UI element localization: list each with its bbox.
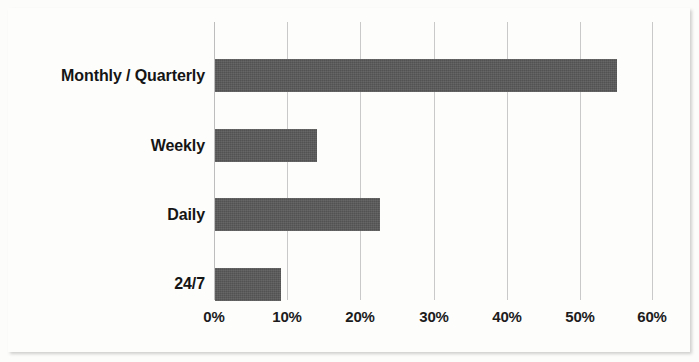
xtick-label-60: 60% <box>637 308 666 325</box>
xtick-label-50: 50% <box>565 308 594 325</box>
category-axis-labels: Monthly / Quarterly Weekly Daily 24/7 <box>8 22 205 300</box>
bar-weekly <box>215 129 317 162</box>
xtick-label-40: 40% <box>492 308 521 325</box>
plot-area: 0% 10% 20% 30% 40% 50% 60% <box>214 22 653 300</box>
xtick-label-20: 20% <box>345 308 374 325</box>
category-label-24-7: 24/7 <box>0 275 205 293</box>
bar-24-7 <box>215 268 281 301</box>
bar-daily <box>215 198 380 231</box>
scanned-page-background: Monthly / Quarterly Weekly Daily 24/7 0%… <box>0 0 699 362</box>
category-label-weekly: Weekly <box>0 137 205 155</box>
xtick-label-30: 30% <box>419 308 448 325</box>
gridline-60 <box>652 22 653 300</box>
chart-frame: Monthly / Quarterly Weekly Daily 24/7 0%… <box>8 8 690 352</box>
category-label-daily: Daily <box>0 206 205 224</box>
xtick-label-0: 0% <box>203 308 224 325</box>
bar-monthly-quarterly <box>215 59 617 92</box>
category-label-monthly-quarterly: Monthly / Quarterly <box>0 67 205 85</box>
xtick-label-10: 10% <box>272 308 301 325</box>
